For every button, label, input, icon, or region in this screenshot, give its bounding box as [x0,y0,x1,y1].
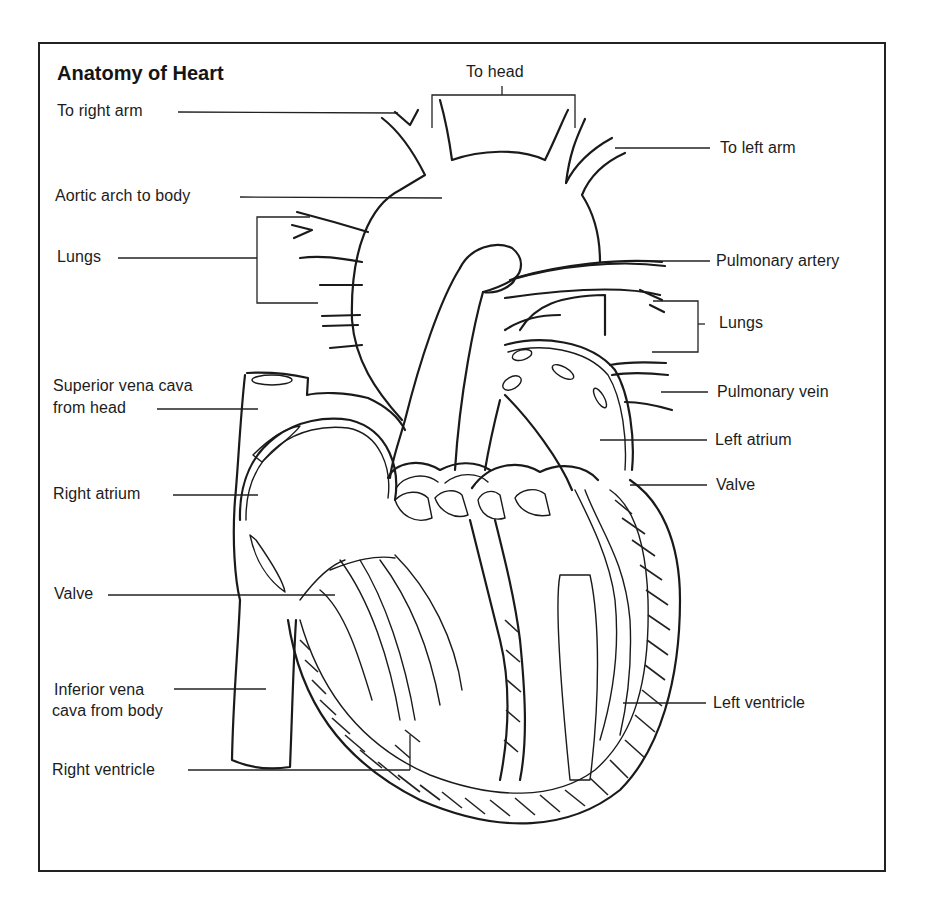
label-pulmonary-artery: Pulmonary artery [716,251,839,271]
diagram-title: Anatomy of Heart [57,62,224,85]
label-inferior-vena-cava-2: cava from body [52,701,163,721]
label-inferior-vena-cava-1: Inferior vena [54,680,144,700]
label-superior-vena-cava-1: Superior vena cava [53,376,193,396]
label-left-atrium: Left atrium [715,430,792,450]
aorta [390,245,662,478]
semilunar-valves [388,463,598,520]
myocardium-hatching [300,500,670,816]
pulmonary-artery [505,264,665,335]
label-left-ventricle: Left ventricle [713,693,805,713]
label-lungs-left: Lungs [57,247,101,267]
leader-lines [108,86,710,770]
right-atrium [234,419,396,600]
label-to-head: To head [466,62,524,82]
label-valve-right: Valve [716,475,755,495]
label-lungs-right: Lungs [719,313,763,333]
label-right-atrium: Right atrium [53,484,140,504]
inferior-vena-cava [232,600,296,768]
label-to-right-arm: To right arm [57,101,143,121]
label-pulmonary-vein: Pulmonary vein [717,382,829,402]
label-to-left-arm: To left arm [720,138,796,158]
label-right-ventricle: Right ventricle [52,760,155,780]
label-valve-left: Valve [54,584,93,604]
aortic-arch [292,100,625,420]
label-aortic-arch: Aortic arch to body [55,186,190,206]
label-superior-vena-cava-2: from head [53,398,126,418]
